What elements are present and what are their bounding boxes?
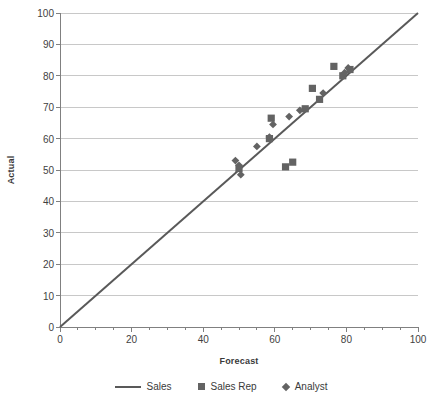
- y-tick-label: 60: [14, 133, 60, 144]
- legend-label: Sales Rep: [211, 381, 257, 392]
- y-tick-label: 0: [14, 322, 60, 333]
- y-tick-label: 20: [14, 259, 60, 270]
- scatter-chart: Actual 0102030405060708090100 0204060801…: [0, 0, 442, 410]
- square-marker-icon: [198, 383, 205, 390]
- x-tick-label: 100: [398, 334, 438, 345]
- data-point-sales-rep: [282, 163, 289, 170]
- y-tick-label: 70: [14, 102, 60, 113]
- x-tick-label: 60: [255, 334, 295, 345]
- legend-item-sales[interactable]: Sales: [115, 381, 172, 392]
- x-tick-label: 20: [112, 334, 152, 345]
- x-axis-tick-labels: 020406080100: [60, 334, 418, 350]
- data-point-sales-rep: [316, 96, 323, 103]
- y-tick-label: 10: [14, 290, 60, 301]
- legend-item-sales-rep[interactable]: Sales Rep: [198, 381, 257, 392]
- x-axis-title: Forecast: [60, 356, 418, 366]
- y-tick-label: 90: [14, 39, 60, 50]
- legend-label: Sales: [147, 381, 172, 392]
- plot-area: [60, 13, 418, 327]
- legend-label: Analyst: [295, 381, 328, 392]
- data-point-analyst: [285, 113, 293, 121]
- data-point-sales-rep: [289, 159, 296, 166]
- y-tick-label: 40: [14, 196, 60, 207]
- data-point-sales-rep: [330, 63, 337, 70]
- x-tick-label: 0: [40, 334, 80, 345]
- x-tick-label: 80: [326, 334, 366, 345]
- y-tick-label: 30: [14, 227, 60, 238]
- legend-item-analyst[interactable]: Analyst: [283, 381, 328, 392]
- diamond-marker-icon: [281, 382, 289, 390]
- data-point-sales-rep: [309, 85, 316, 92]
- plot-canvas: [60, 13, 418, 327]
- series-sales-rep: [235, 63, 353, 172]
- y-tick-label: 100: [14, 8, 60, 19]
- data-point-analyst: [253, 143, 261, 151]
- y-axis-tick-labels: 0102030405060708090100: [0, 13, 60, 327]
- x-tick-label: 40: [183, 334, 223, 345]
- line-marker-icon: [115, 386, 141, 388]
- y-tick-label: 50: [14, 165, 60, 176]
- chart-legend: SalesSales RepAnalyst: [0, 381, 442, 392]
- data-point-sales-rep: [268, 115, 275, 122]
- y-tick-label: 80: [14, 70, 60, 81]
